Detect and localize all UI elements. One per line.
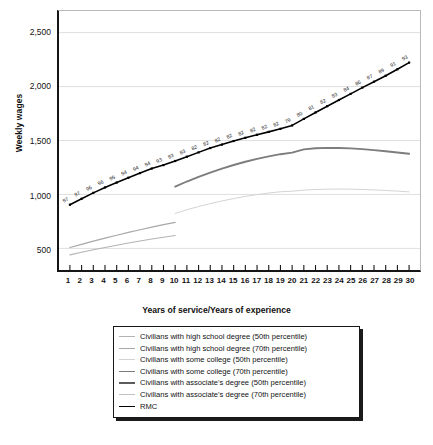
data-point-label: 91 bbox=[389, 60, 397, 68]
data-point-label: 87 bbox=[366, 73, 374, 81]
legend-item[interactable]: Civilians with high school degree (70th … bbox=[119, 343, 354, 355]
data-point-label: 95 bbox=[108, 174, 116, 182]
x-axis-title: Years of service/Years of experience bbox=[0, 305, 433, 315]
legend-item[interactable]: Civilians with associate's degree (70th … bbox=[119, 389, 354, 401]
legend-label: Civilians with some college (70th percen… bbox=[140, 366, 288, 378]
data-point-label: 83 bbox=[167, 152, 175, 160]
data-point-marker bbox=[256, 134, 258, 136]
data-point-label: 82 bbox=[249, 126, 257, 134]
data-point-label: 96 bbox=[97, 178, 105, 186]
data-point-label: 94 bbox=[143, 160, 151, 168]
data-point-marker bbox=[127, 177, 129, 179]
legend-swatch-line-icon bbox=[119, 359, 135, 360]
legend-item[interactable]: Civilians with some college (50th percen… bbox=[119, 354, 354, 366]
data-point-marker bbox=[338, 99, 340, 101]
x-tick-label: 30 bbox=[403, 276, 417, 285]
data-point-marker bbox=[139, 172, 141, 174]
data-point-label: 82 bbox=[260, 123, 268, 131]
data-point-marker bbox=[385, 75, 387, 77]
data-point-marker bbox=[326, 105, 328, 107]
data-point-marker bbox=[373, 81, 375, 83]
legend-label: Civilians with high school degree (70th … bbox=[140, 343, 307, 355]
legend-swatch-line-icon bbox=[119, 348, 135, 349]
legend-label: Civilians with associate's degree (50th … bbox=[140, 377, 306, 389]
y-tick-label: 500 bbox=[3, 245, 51, 255]
legend-swatch-line-icon bbox=[119, 394, 135, 395]
y-tick-label: 2,500 bbox=[3, 27, 51, 37]
legend-swatch-line-icon bbox=[119, 371, 135, 372]
data-point-marker bbox=[221, 144, 223, 146]
data-point-marker bbox=[279, 128, 281, 130]
data-point-marker bbox=[92, 192, 94, 194]
data-point-label: 86 bbox=[354, 79, 362, 87]
data-point-label: 82 bbox=[319, 97, 327, 105]
series-line-2 bbox=[175, 189, 409, 213]
y-tick-label: 1,000 bbox=[3, 191, 51, 201]
data-point-marker bbox=[174, 160, 176, 162]
data-point-label: 97 bbox=[62, 196, 70, 204]
series-line-3 bbox=[175, 148, 409, 187]
data-point-marker bbox=[350, 93, 352, 95]
data-point-label: 94 bbox=[132, 164, 140, 172]
data-point-marker bbox=[151, 167, 153, 169]
chart-canvas: 9797969695949494938383828282828282828279… bbox=[59, 11, 420, 270]
data-point-marker bbox=[268, 131, 270, 133]
legend-item[interactable]: Civilians with associate's degree (50th … bbox=[119, 377, 354, 389]
data-point-label: 82 bbox=[225, 132, 233, 140]
series-line-0 bbox=[70, 235, 175, 254]
data-point-marker bbox=[361, 87, 363, 89]
plot-area: 9797969695949494938383828282828282828279… bbox=[57, 10, 421, 272]
data-point-label: 80 bbox=[295, 110, 303, 118]
data-point-label: 97 bbox=[73, 190, 81, 198]
data-point-marker bbox=[314, 111, 316, 113]
data-point-label: 93 bbox=[155, 156, 163, 164]
data-point-marker bbox=[233, 140, 235, 142]
legend-item[interactable]: Civilians with high school degree (50th … bbox=[119, 331, 354, 343]
data-point-marker bbox=[209, 147, 211, 149]
legend-swatch-line-icon bbox=[119, 382, 135, 384]
data-point-marker bbox=[162, 164, 164, 166]
y-tick-label: 1,500 bbox=[3, 136, 51, 146]
data-point-label: 83 bbox=[331, 91, 339, 99]
data-point-label: 96 bbox=[85, 184, 93, 192]
data-point-label: 83 bbox=[179, 148, 187, 156]
data-point-label: 93 bbox=[401, 54, 409, 62]
data-point-label: 79 bbox=[284, 116, 292, 124]
y-tick-label: 2,000 bbox=[3, 81, 51, 91]
chart-figure: Weekly wages 5001,0001,5002,0002,500 979… bbox=[0, 0, 433, 445]
data-point-marker bbox=[104, 186, 106, 188]
data-point-marker bbox=[408, 61, 410, 63]
legend-label: Civilians with high school degree (50th … bbox=[140, 331, 307, 343]
y-axis-title: Weekly wages bbox=[14, 78, 24, 168]
data-point-label: 82 bbox=[190, 143, 198, 151]
data-point-marker bbox=[303, 118, 305, 120]
data-point-marker bbox=[396, 68, 398, 70]
data-point-label: 94 bbox=[120, 169, 128, 177]
data-point-label: 89 bbox=[377, 67, 385, 75]
data-point-label: 82 bbox=[214, 136, 222, 144]
data-point-marker bbox=[186, 156, 188, 158]
data-point-label: 84 bbox=[342, 85, 350, 93]
legend-item[interactable]: RMC bbox=[119, 401, 354, 413]
data-point-label: 82 bbox=[272, 120, 280, 128]
data-point-marker bbox=[291, 124, 293, 126]
legend-item[interactable]: Civilians with some college (70th percen… bbox=[119, 366, 354, 378]
legend-label: RMC bbox=[140, 401, 157, 413]
data-point-label: 81 bbox=[307, 103, 315, 111]
legend-swatch-line-icon bbox=[119, 336, 135, 337]
legend-swatch-line-icon bbox=[119, 406, 135, 407]
data-point-marker bbox=[81, 198, 83, 200]
legend-label: Civilians with associate's degree (70th … bbox=[140, 389, 306, 401]
data-point-label: 82 bbox=[237, 129, 245, 137]
chart-legend: Civilians with high school degree (50th … bbox=[113, 326, 360, 418]
data-point-marker bbox=[244, 137, 246, 139]
data-point-marker bbox=[69, 204, 71, 206]
data-point-marker bbox=[197, 151, 199, 153]
data-point-marker bbox=[116, 182, 118, 184]
legend-label: Civilians with some college (50th percen… bbox=[140, 354, 288, 366]
